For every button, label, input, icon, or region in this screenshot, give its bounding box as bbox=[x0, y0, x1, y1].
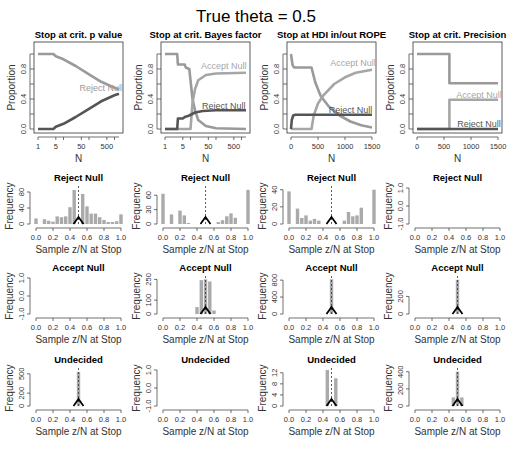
y-tick-label: 0.8 bbox=[272, 64, 281, 74]
x-tick-label: 0.8 bbox=[352, 233, 362, 242]
x-tick-label: 0.4 bbox=[318, 233, 328, 242]
figure: True theta = 0.5 Stop at crit. p value0.… bbox=[0, 0, 513, 450]
histogram-bar bbox=[212, 311, 215, 315]
plot-frame bbox=[161, 42, 250, 133]
histogram-bar bbox=[246, 190, 249, 224]
x-tick-label: 0.4 bbox=[318, 415, 328, 424]
x-tick-label: 1.0 bbox=[369, 233, 379, 242]
x-tick-label: 1.0 bbox=[243, 233, 253, 242]
x-tick-label: 0.6 bbox=[82, 233, 92, 242]
y-axis-label: Proportion bbox=[133, 64, 144, 110]
histogram-bar bbox=[234, 218, 237, 224]
panel-title: Undecided bbox=[181, 354, 230, 365]
x-axis-label: N bbox=[202, 153, 209, 164]
x-tick-label: 0.6 bbox=[461, 323, 471, 332]
x-tick-label: 0.0 bbox=[31, 415, 41, 424]
x-tick-label: 1.0 bbox=[116, 323, 126, 332]
x-tick-label: 0.8 bbox=[99, 323, 109, 332]
panel-title: Accept Null bbox=[179, 262, 231, 273]
x-tick-label: 5 bbox=[181, 142, 185, 151]
x-tick-label: 0.4 bbox=[192, 233, 202, 242]
histogram-bar bbox=[170, 214, 173, 224]
x-tick-label: 1.0 bbox=[243, 323, 253, 332]
x-tick-label: 0.6 bbox=[461, 415, 471, 424]
series-annotation: Reject Null bbox=[79, 83, 123, 93]
y-tick-label: 0.0 bbox=[144, 383, 153, 393]
x-axis-label: Sample z/N at Stop bbox=[288, 334, 375, 345]
histogram-bar bbox=[34, 218, 37, 224]
x-tick-label: 0.6 bbox=[461, 233, 471, 242]
panel-title: Reject Null bbox=[181, 172, 230, 183]
x-tick-label: 0.0 bbox=[284, 323, 294, 332]
series-annotation: Accept Null bbox=[456, 90, 502, 100]
histogram-bar bbox=[208, 282, 211, 315]
histogram-bar bbox=[56, 216, 59, 224]
y-tick-label: 0.8 bbox=[146, 64, 155, 74]
x-tick-label: 1.0 bbox=[369, 415, 379, 424]
x-tick-label: 1 bbox=[36, 142, 40, 151]
x-axis-label: Sample z/N at Stop bbox=[35, 334, 122, 345]
series-annotation: Accept Null bbox=[330, 58, 376, 68]
panel-title: Undecided bbox=[433, 354, 482, 365]
x-tick-label: 0.0 bbox=[158, 415, 168, 424]
y-tick-label: 4 bbox=[270, 393, 279, 397]
series-annotation: Reject Null bbox=[202, 101, 246, 111]
x-tick-label: 0.8 bbox=[478, 233, 488, 242]
x-tick-label: 500 bbox=[312, 142, 325, 151]
histogram-bar bbox=[85, 206, 88, 224]
line-panel-1: Stop at crit. Bayes factor0.00.40.8Propo… bbox=[133, 29, 262, 164]
histogram-bar bbox=[111, 222, 114, 224]
histogram-bar bbox=[107, 222, 110, 224]
x-axis-label: N bbox=[454, 153, 461, 164]
y-tick-label: -1.0 bbox=[17, 308, 26, 321]
histogram-bar bbox=[296, 209, 299, 224]
y-tick-label: 250 bbox=[144, 273, 153, 286]
panel-title: Accept Null bbox=[52, 262, 104, 273]
y-tick-label: 0 bbox=[270, 404, 279, 408]
y-axis-label: Frequency bbox=[131, 182, 142, 229]
y-axis-label: Proportion bbox=[259, 64, 270, 110]
x-tick-label: 0.2 bbox=[301, 415, 311, 424]
histogram-bar bbox=[73, 190, 76, 224]
histogram-bar bbox=[326, 370, 329, 406]
y-tick-label: 0 bbox=[144, 222, 153, 226]
y-tick-label: 200 bbox=[17, 387, 26, 400]
x-tick-label: 0.2 bbox=[301, 323, 311, 332]
x-tick-label: 0.8 bbox=[478, 323, 488, 332]
x-tick-label: 0.4 bbox=[444, 415, 454, 424]
x-tick-label: 0.8 bbox=[99, 233, 109, 242]
y-axis-label: Frequency bbox=[257, 364, 268, 411]
histogram-panel-accept-null-1: Accept Null0100250Frequency0.00.20.40.60… bbox=[131, 262, 253, 345]
panel-title: Accept Null bbox=[431, 262, 483, 273]
y-tick-label: 800 bbox=[270, 274, 279, 287]
x-tick-label: 50 bbox=[77, 142, 85, 151]
x-axis-label: Sample z/N at Stop bbox=[288, 426, 375, 437]
line-panel-3: Stop at crit. Precision0.00.40.8Proporti… bbox=[385, 29, 507, 164]
y-axis-label: Frequency bbox=[383, 182, 394, 229]
histogram-panel-reject-null-3: Reject Null-1.00.01.0Frequency0.00.20.40… bbox=[383, 172, 505, 255]
x-tick-label: 500 bbox=[101, 142, 114, 151]
y-tick-label: 30 bbox=[144, 205, 153, 213]
y-tick-label: 1.0 bbox=[396, 183, 405, 193]
histogram-panel-accept-null-3: Accept Null0200Frequency0.00.20.40.60.81… bbox=[383, 262, 505, 345]
series-annotation: Reject Null bbox=[329, 105, 373, 115]
y-tick-label: 0.8 bbox=[398, 64, 407, 74]
histogram-bar bbox=[200, 280, 203, 314]
panel-title: Stop at crit. Bayes factor bbox=[150, 29, 262, 40]
histogram-panel-reject-null-0: Reject Null04080Frequency0.00.20.40.60.8… bbox=[4, 172, 126, 255]
x-tick-label: 0.2 bbox=[48, 415, 58, 424]
histogram-bar bbox=[47, 221, 50, 224]
x-tick-label: 0.8 bbox=[478, 415, 488, 424]
x-axis-label: Sample z/N at Stop bbox=[414, 334, 501, 345]
x-tick-label: 0.2 bbox=[427, 233, 437, 242]
y-tick-label: 400 bbox=[270, 291, 279, 304]
y-tick-label: -1.0 bbox=[396, 218, 405, 231]
y-tick-label: 0 bbox=[270, 222, 279, 226]
x-axis-label: Sample z/N at Stop bbox=[414, 244, 501, 255]
x-axis-label: N bbox=[75, 153, 82, 164]
histogram-panel-undecided-2: Undecided04812Frequency0.00.20.40.60.81.… bbox=[257, 354, 379, 437]
panel-title: Stop at crit. Precision bbox=[409, 29, 507, 40]
y-tick-label: 100 bbox=[144, 294, 153, 307]
x-tick-label: 1.0 bbox=[243, 415, 253, 424]
x-tick-label: 1.0 bbox=[116, 415, 126, 424]
